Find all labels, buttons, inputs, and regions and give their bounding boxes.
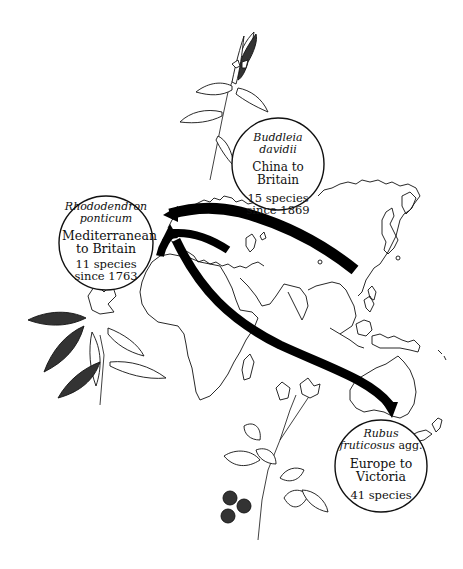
pacific-islands: [438, 350, 446, 360]
blackberry: [223, 491, 237, 505]
caspian-sea-outline: [246, 234, 256, 252]
arrow-europe-to-victoria: [176, 240, 390, 405]
southeast-asia-islands: [330, 296, 420, 352]
island: [396, 256, 400, 260]
rhododendron-species-line2: ponticum: [62, 213, 150, 225]
rubus-count-line1: 41 species: [337, 489, 425, 501]
india-outline: [284, 282, 356, 334]
rhododendron-species-line1: Rhododendron: [62, 201, 150, 213]
arabia-outline: [240, 278, 284, 306]
island: [318, 260, 322, 264]
aral-sea-outline: [260, 232, 266, 240]
buddleia-label: Buddleia davidii China to Britain 15 spe…: [234, 132, 322, 216]
rhododendron-illustration: [28, 284, 166, 405]
rubus-illustration: [221, 378, 328, 540]
arrowhead-victoria: [382, 402, 398, 418]
buddleia-species-line1: Buddleia: [234, 132, 322, 144]
blackberry: [237, 499, 251, 513]
rubus-species-line2: fruticosus: [339, 439, 395, 452]
rhododendron-label: Rhododendron ponticum Mediterranean to B…: [62, 201, 150, 282]
philippines-outline: [368, 286, 376, 300]
rubus-route-line2: Victoria: [337, 470, 425, 483]
buddleia-species-line2: davidii: [234, 144, 322, 156]
buddleia-route: China to Britain: [234, 161, 322, 186]
buddleia-count-line2: since 1869: [234, 204, 322, 216]
rubus-label: Rubus fruticosus agg. Europe to Victoria…: [337, 428, 425, 501]
kamchatka-outline: [402, 192, 416, 214]
rubus-species-suffix: agg.: [395, 439, 423, 452]
blackberry: [221, 509, 235, 523]
madagascar-outline: [242, 354, 254, 380]
rhododendron-route-line2: to Britain: [62, 242, 150, 255]
rhododendron-count-line2: since 1763: [62, 270, 150, 282]
australia-outline: [350, 356, 416, 418]
